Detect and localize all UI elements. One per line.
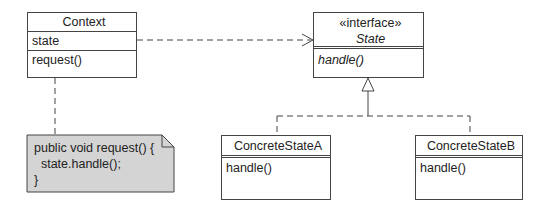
attribute-state: state <box>28 32 136 51</box>
note-text: public void request() { state.handle(); … <box>34 140 154 188</box>
note-line-2: state.handle(); <box>34 157 121 171</box>
class-name: Context <box>28 13 136 32</box>
note-line-1: public void request() { <box>34 141 154 155</box>
class-name: State <box>314 31 423 47</box>
class-name: ConcreteStateB <box>416 136 522 158</box>
operation-request: request() <box>28 51 136 71</box>
realization-triangle-icon <box>362 78 374 91</box>
class-concrete-state-b[interactable]: ConcreteStateB handle() <box>415 135 523 200</box>
class-context[interactable]: Context state request() <box>27 12 137 78</box>
class-name: ConcreteStateA <box>222 136 330 158</box>
note-line-3: } <box>34 173 38 187</box>
interface-state[interactable]: «interface» State handle() <box>313 12 424 78</box>
operation-handle: handle() <box>314 49 423 69</box>
stereotype-label: «interface» <box>314 13 423 31</box>
code-note[interactable]: public void request() { state.handle(); … <box>27 135 174 192</box>
class-concrete-state-a[interactable]: ConcreteStateA handle() <box>221 135 331 200</box>
operation-handle: handle() <box>222 158 330 178</box>
operation-handle: handle() <box>416 158 522 178</box>
